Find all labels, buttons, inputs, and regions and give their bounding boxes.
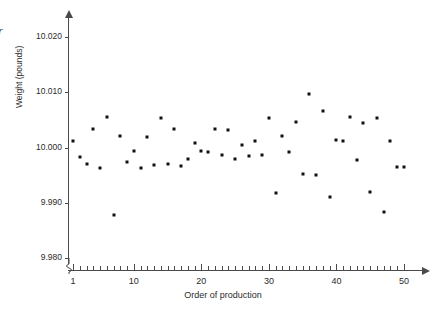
y-tick-mark [65, 37, 69, 38]
data-point [112, 214, 115, 217]
x-tick-mark-minor [168, 266, 169, 270]
x-tick-mark-major [73, 264, 74, 270]
x-tick-mark-minor [181, 266, 182, 270]
x-tick-label: 1 [70, 276, 75, 286]
data-point [321, 110, 324, 113]
data-point [146, 136, 149, 139]
x-tick-label: 20 [196, 276, 206, 286]
data-point [85, 162, 88, 165]
data-point [315, 173, 318, 176]
x-tick-mark-minor [370, 266, 371, 270]
data-point [254, 140, 257, 143]
x-tick-mark-minor [228, 266, 229, 270]
scatter-plot-figure: r 9.9809.99010.00010.01010.020 110203040… [0, 0, 446, 313]
data-point [301, 173, 304, 176]
x-tick-label: 50 [399, 276, 409, 286]
x-tick-mark-minor [357, 266, 358, 270]
data-point [403, 166, 406, 169]
data-point [207, 151, 210, 154]
data-point [105, 116, 108, 119]
x-tick-mark-minor [93, 266, 94, 270]
x-tick-mark-minor [303, 266, 304, 270]
data-point [288, 150, 291, 153]
x-tick-mark-minor [154, 266, 155, 270]
data-point [396, 166, 399, 169]
data-point [294, 121, 297, 124]
x-tick-mark-minor [363, 266, 364, 270]
data-point [119, 135, 122, 138]
data-point [153, 163, 156, 166]
y-axis-arrow-icon [65, 10, 73, 18]
x-tick-mark-minor [350, 266, 351, 270]
data-point [355, 159, 358, 162]
x-tick-mark-minor [147, 266, 148, 270]
x-tick-mark-minor [80, 266, 81, 270]
x-tick-mark-minor [309, 266, 310, 270]
data-point [193, 141, 196, 144]
x-axis-line [68, 270, 424, 271]
data-point [281, 135, 284, 138]
x-tick-mark-minor [141, 266, 142, 270]
data-point [362, 121, 365, 124]
x-tick-label: 40 [331, 276, 341, 286]
x-tick-mark-minor [323, 266, 324, 270]
y-tick-mark [65, 148, 69, 149]
data-point [166, 162, 169, 165]
x-tick-mark-minor [222, 266, 223, 270]
data-point [139, 166, 142, 169]
data-point [180, 164, 183, 167]
y-tick-label: 10.000 [18, 142, 62, 152]
data-point [274, 192, 277, 195]
data-point [267, 117, 270, 120]
x-tick-label: 10 [129, 276, 139, 286]
data-point [220, 153, 223, 156]
x-tick-mark-major [201, 264, 202, 270]
x-axis-arrow-icon [422, 267, 430, 275]
data-point [335, 138, 338, 141]
x-tick-mark-minor [188, 266, 189, 270]
data-point [92, 128, 95, 131]
x-tick-mark-minor [289, 266, 290, 270]
x-tick-mark-major [269, 264, 270, 270]
data-point [200, 150, 203, 153]
x-tick-mark-minor [235, 266, 236, 270]
data-point [159, 116, 162, 119]
y-tick-label: 9.990 [18, 197, 62, 207]
data-point [240, 144, 243, 147]
data-point [99, 167, 102, 170]
y-tick-mark [65, 92, 69, 93]
data-point [369, 191, 372, 194]
x-tick-label: 30 [264, 276, 274, 286]
y-tick-label: 10.020 [18, 31, 62, 41]
x-tick-mark-minor [174, 266, 175, 270]
x-tick-mark-minor [390, 266, 391, 270]
data-point [126, 160, 129, 163]
x-tick-mark-major [134, 264, 135, 270]
x-tick-mark-major [336, 264, 337, 270]
x-tick-mark-minor [296, 266, 297, 270]
x-tick-mark-minor [282, 266, 283, 270]
data-point [308, 92, 311, 95]
data-point [213, 128, 216, 131]
x-tick-mark-minor [87, 266, 88, 270]
data-point [375, 117, 378, 120]
y-tick-label: 9.980 [18, 252, 62, 262]
x-tick-mark-minor [114, 266, 115, 270]
data-point [247, 154, 250, 157]
data-point [227, 129, 230, 132]
x-tick-mark-major [404, 264, 405, 270]
data-point [78, 155, 81, 158]
x-tick-mark-minor [255, 266, 256, 270]
x-tick-mark-minor [242, 266, 243, 270]
x-tick-mark-minor [330, 266, 331, 270]
x-tick-mark-minor [384, 266, 385, 270]
y-tick-label: 10.010 [18, 86, 62, 96]
x-tick-mark-minor [161, 266, 162, 270]
x-tick-mark-minor [249, 266, 250, 270]
x-tick-mark-minor [316, 266, 317, 270]
data-point [328, 196, 331, 199]
x-tick-mark-minor [208, 266, 209, 270]
data-point [186, 158, 189, 161]
x-axis-label: Order of production [0, 290, 446, 300]
data-point [342, 140, 345, 143]
